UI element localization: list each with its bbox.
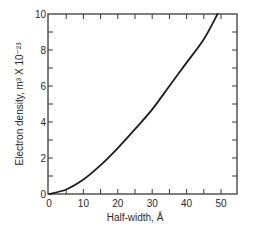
x-tick-label: 40	[181, 198, 193, 209]
x-tick-label: 20	[112, 198, 124, 209]
x-tick-label: 30	[147, 198, 159, 209]
y-tick-label: 8	[40, 45, 46, 56]
y-axis-title: Electron density, m³ X 10⁻²³	[14, 42, 25, 166]
y-tick-label: 2	[40, 153, 46, 164]
x-tick-labels: 01020304050	[46, 198, 227, 209]
x-axis-title: Half-width, Å	[107, 211, 164, 223]
chart: 01020304050 0246810 Half-width, Å Electr…	[0, 0, 253, 237]
plot-border	[48, 14, 237, 194]
y-tick-labels: 0246810	[35, 9, 47, 200]
x-tick-label: 10	[78, 198, 90, 209]
y-tick-label: 4	[40, 117, 46, 128]
x-tick-label: 50	[215, 198, 227, 209]
y-tick-label: 10	[35, 9, 47, 20]
y-tick-label: 0	[40, 189, 46, 200]
y-tick-label: 6	[40, 81, 46, 92]
data-curve	[49, 14, 218, 194]
x-tick-label: 0	[46, 198, 52, 209]
plot-frame	[48, 14, 237, 194]
axis-ticks	[48, 14, 237, 194]
